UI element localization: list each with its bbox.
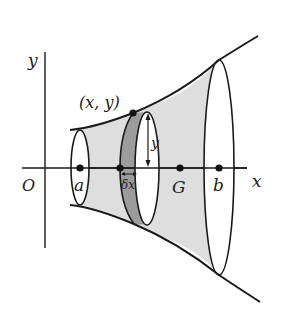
y-axis-label: y — [27, 50, 38, 70]
radius-label: y — [150, 135, 160, 151]
b-label: b — [213, 175, 224, 195]
solid-of-revolution-diagram: y x O (x, y) a b G y δx — [0, 0, 283, 323]
point-b — [215, 164, 222, 171]
point-xy-label: (x, y) — [79, 93, 120, 112]
diagram-canvas: y x O (x, y) a b G y δx — [0, 0, 283, 323]
point-G — [176, 164, 183, 171]
point-slice-x — [116, 164, 123, 171]
delta-x-label: δx — [121, 178, 135, 192]
x-axis-label: x — [252, 171, 262, 191]
point-a — [76, 164, 83, 171]
origin-label: O — [22, 176, 35, 195]
G-label: G — [172, 177, 186, 197]
a-label: a — [74, 175, 84, 195]
point-xy — [129, 109, 136, 116]
